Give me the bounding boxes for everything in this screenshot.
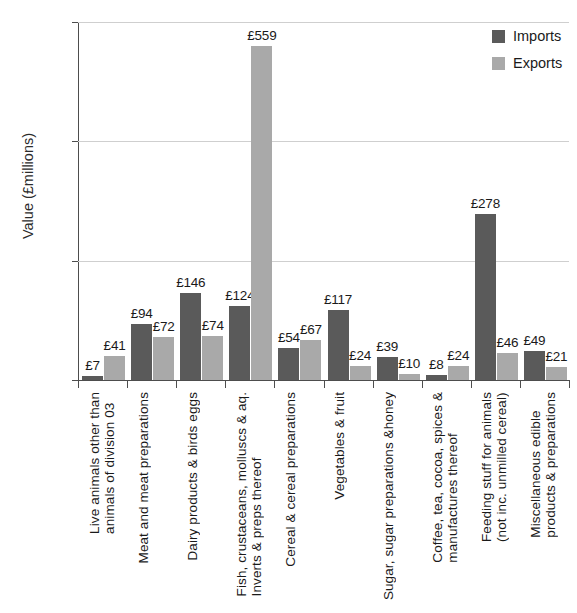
x-axis-label: Cereal & cereal preparations	[283, 392, 298, 567]
legend-label: Exports	[513, 55, 562, 71]
x-axis-tick	[225, 380, 226, 388]
bar-imports	[180, 293, 201, 380]
gridline	[78, 22, 569, 23]
legend-item[interactable]: Imports	[492, 28, 562, 44]
x-axis-tick	[176, 380, 177, 388]
legend-swatch-icon	[492, 57, 505, 70]
bar-exports	[497, 353, 518, 380]
x-axis-label: Live animals other thananimals of divisi…	[87, 392, 117, 534]
bar-value-label: £72	[146, 319, 181, 334]
bar-chart: Value (£millions) 0200400600 £7£41£94£72…	[0, 0, 577, 613]
x-axis-label: Miscellaneous edibleproducts & preparati…	[528, 392, 558, 538]
bar-imports	[82, 376, 103, 380]
bar-exports	[202, 336, 223, 380]
x-axis-tick	[78, 380, 79, 388]
bar-exports	[104, 356, 125, 380]
x-axis-tick	[127, 380, 128, 388]
bar-value-label: £41	[97, 338, 132, 353]
bar-exports	[350, 366, 371, 380]
gridline	[78, 141, 569, 142]
bar-value-label: £49	[517, 333, 552, 348]
x-axis-label: Dairy products & birds eggs	[185, 392, 200, 561]
x-axis-label: Vegetables & fruit	[332, 392, 347, 500]
x-axis-tick	[373, 380, 374, 388]
legend-swatch-icon	[492, 30, 505, 43]
y-axis-title: Value (£millions)	[20, 86, 36, 286]
bar-exports	[448, 366, 469, 380]
x-axis-label: Meat and meat preparations	[136, 392, 151, 563]
bar-value-label: £24	[441, 348, 476, 363]
bar-imports	[229, 306, 250, 380]
bar-value-label: £146	[173, 275, 208, 290]
bar-exports	[153, 337, 174, 380]
bar-imports	[426, 375, 447, 380]
x-axis-label: Sugar, sugar preparations &honey	[381, 392, 396, 600]
bar-value-label: £67	[293, 322, 328, 337]
bar-exports	[399, 374, 420, 380]
x-axis-label: Feeding stuff for animals(not inc. unmil…	[479, 392, 509, 542]
bar-value-label: £278	[468, 196, 503, 211]
x-axis-tick	[569, 380, 570, 388]
bar-imports	[328, 310, 349, 380]
x-axis-tick	[324, 380, 325, 388]
bar-value-label: £39	[370, 339, 405, 354]
bar-imports	[278, 348, 299, 380]
bar-exports	[300, 340, 321, 380]
x-axis-label: Coffee, tea, cocoa, spices &manufactures…	[430, 392, 460, 563]
legend-label: Imports	[513, 28, 561, 44]
x-axis-tick	[520, 380, 521, 388]
bar-value-label: £74	[195, 318, 230, 333]
x-axis-label: Fish, crustaceans, molluscs & aq.Inverts…	[234, 392, 264, 596]
x-axis-tick	[471, 380, 472, 388]
bar-value-label: £117	[321, 292, 356, 307]
bar-exports	[546, 367, 567, 380]
bar-value-label: £21	[539, 349, 574, 364]
legend-item[interactable]: Exports	[492, 55, 562, 71]
chart-legend: ImportsExports	[492, 28, 562, 82]
bar-imports	[475, 214, 496, 380]
bar-value-label: £559	[244, 28, 279, 43]
x-axis-tick	[274, 380, 275, 388]
bar-exports	[251, 46, 272, 380]
x-axis-tick	[422, 380, 423, 388]
